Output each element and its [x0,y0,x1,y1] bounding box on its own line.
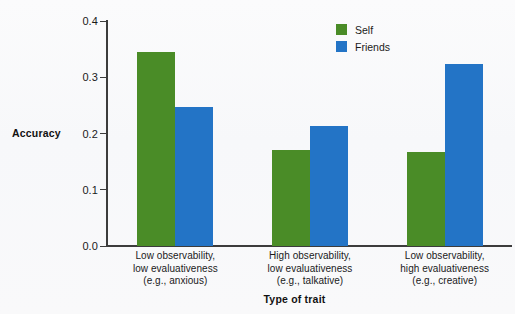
bar-friends-group-1 [175,107,213,246]
y-axis-tick-label: 0.2 [28,128,98,140]
y-axis-tick-label: 0.4 [28,15,98,27]
legend: SelfFriends [336,22,390,56]
category-label-line: low evaluativeness [240,263,380,276]
category-label-line: (e.g., talkative) [240,275,380,288]
bar-self-group-2 [272,150,310,246]
chart-figure: Accuracy 0.00.10.20.30.4 Low observabili… [0,0,515,314]
plot-area [108,21,512,246]
x-axis-title: Type of trait [0,293,515,305]
legend-label: Friends [355,41,390,53]
y-axis-tick-label: 0.1 [28,184,98,196]
x-axis-title-text: Type of trait [264,293,326,305]
category-label-line: low evaluativeness [105,263,245,276]
legend-swatch-self [336,24,347,35]
legend-item-self[interactable]: Self [336,22,390,37]
category-label-line: Low observability, [375,250,515,263]
x-axis-category-label-2: High observability,low evaluativeness(e.… [240,250,380,288]
category-label-line: (e.g., anxious) [105,275,245,288]
legend-item-friends[interactable]: Friends [336,39,390,54]
legend-swatch-friends [336,41,347,52]
legend-label: Self [355,24,373,36]
bar-friends-group-3 [445,64,483,246]
bar-self-group-1 [137,52,175,246]
x-axis-category-label-3: Low observability,high evaluativeness(e.… [375,250,515,288]
y-axis-tick-label: 0.0 [28,240,98,252]
y-axis-tick-label: 0.3 [28,71,98,83]
category-label-line: (e.g., creative) [375,275,515,288]
bar-self-group-3 [407,152,445,246]
category-label-line: Low observability, [105,250,245,263]
x-axis-category-label-1: Low observability,low evaluativeness(e.g… [105,250,245,288]
category-label-line: High observability, [240,250,380,263]
bar-friends-group-2 [310,126,348,246]
category-label-line: high evaluativeness [375,263,515,276]
